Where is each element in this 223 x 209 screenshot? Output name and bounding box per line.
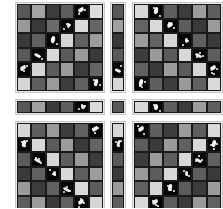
grid-cell	[17, 33, 31, 48]
grid-block-bottom-strip-col	[110, 121, 126, 208]
grid-cell	[178, 138, 193, 153]
grid-cell	[31, 138, 45, 153]
speckle-icon	[23, 70, 25, 72]
grid-cell	[163, 48, 178, 63]
grid-cell	[112, 181, 124, 196]
glyph-cell	[178, 33, 193, 48]
grid-cell	[17, 167, 31, 182]
glyph-cell	[89, 77, 103, 92]
grid-cell	[60, 167, 74, 182]
grid-cell	[207, 77, 222, 92]
grid-cell	[163, 101, 178, 113]
speckle-icon	[26, 65, 28, 67]
speckle-icon	[183, 170, 185, 172]
grid-cell	[17, 48, 31, 63]
speckle-icon	[139, 85, 141, 87]
glyph-cell	[163, 19, 178, 34]
grid-cell	[89, 152, 103, 167]
glyph-cell	[134, 77, 149, 92]
grid-cell	[89, 19, 103, 34]
grid-cell	[207, 196, 222, 209]
grid-cell	[46, 48, 60, 63]
glyph-cell	[149, 4, 164, 19]
grid-cell	[134, 167, 149, 182]
grid-cell	[178, 101, 193, 113]
grid-cell	[17, 4, 31, 19]
speckle-icon	[198, 155, 200, 157]
speckle-icon	[157, 205, 159, 207]
grid-cell	[207, 167, 222, 182]
grid-cell	[46, 152, 60, 167]
glyph-cell	[192, 48, 207, 63]
speckle-icon	[159, 110, 161, 112]
grid-cell	[207, 152, 222, 167]
speckle-icon	[49, 169, 51, 171]
grid-block-bottom-right	[132, 121, 223, 208]
grid-cell	[178, 181, 193, 196]
glyph-cell	[46, 33, 60, 48]
glyph-cell	[134, 123, 149, 138]
grid-cell	[46, 101, 60, 113]
grid-cell	[17, 123, 31, 138]
grid-cell	[112, 152, 124, 167]
grid-cell	[46, 196, 60, 209]
speckle-icon	[120, 140, 122, 142]
speckle-icon	[63, 28, 65, 30]
grid-cell	[74, 48, 88, 63]
glyph-cell	[149, 196, 164, 209]
speckle-icon	[196, 56, 198, 58]
grid-cell	[192, 196, 207, 209]
grid-cell	[74, 138, 88, 153]
grid-cell	[31, 123, 45, 138]
grid-block-middle-strip-left	[15, 99, 105, 115]
grid-cell	[112, 123, 124, 138]
grid-cell	[149, 123, 164, 138]
grid-cell	[89, 33, 103, 48]
grid-cell	[163, 33, 178, 48]
speckle-icon	[35, 157, 37, 159]
glyph-cell	[60, 181, 74, 196]
grid-cell	[149, 138, 164, 153]
glyph-cell	[60, 19, 74, 34]
grid-cell	[112, 77, 124, 92]
grid-cell	[112, 48, 124, 63]
speckle-icon	[188, 175, 190, 177]
grid-cell	[60, 138, 74, 153]
grid-cell	[60, 62, 74, 77]
grid-cell	[192, 167, 207, 182]
speckle-icon	[26, 140, 28, 142]
speckle-icon	[21, 141, 23, 143]
speckle-icon	[53, 39, 55, 41]
grid-cell	[149, 62, 164, 77]
glyph-cell	[112, 138, 124, 153]
grid-cell	[60, 4, 74, 19]
speckle-icon	[185, 39, 187, 41]
grid-cell	[149, 77, 164, 92]
speckle-icon	[141, 86, 143, 88]
grid-cell	[112, 33, 124, 48]
speckle-icon	[153, 7, 155, 9]
grid-cell	[149, 152, 164, 167]
grid-cell	[178, 62, 193, 77]
speckle-icon	[186, 174, 188, 176]
speckle-icon	[140, 129, 142, 131]
grid-cell	[112, 4, 124, 19]
glyph-cell	[192, 152, 207, 167]
grid-cell	[192, 19, 207, 34]
speckle-icon	[120, 65, 122, 67]
grid-cell	[178, 152, 193, 167]
speckle-icon	[78, 13, 80, 15]
grid-cell	[74, 123, 88, 138]
grid-cell	[60, 48, 74, 63]
grid-cell	[178, 123, 193, 138]
grid-block-middle-strip-center	[110, 99, 126, 115]
grid-cell	[134, 4, 149, 19]
grid-cell	[178, 19, 193, 34]
grid-cell	[192, 101, 207, 113]
grid-cell	[192, 4, 207, 19]
grid-cell	[134, 48, 149, 63]
speckle-icon	[144, 81, 146, 83]
speckle-icon	[54, 174, 56, 176]
speckle-icon	[187, 40, 189, 42]
grid-cell	[74, 152, 88, 167]
